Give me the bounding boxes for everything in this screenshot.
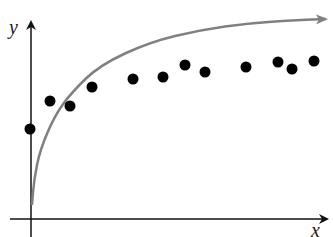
data-point	[287, 64, 298, 75]
data-point	[128, 74, 139, 85]
data-point	[87, 82, 98, 93]
data-point	[273, 57, 284, 68]
data-point	[180, 60, 191, 71]
fitted-curve	[32, 19, 326, 205]
scatter-chart: y x	[0, 0, 333, 237]
data-point	[45, 96, 56, 107]
data-point	[309, 56, 320, 67]
x-axis-label: x	[310, 219, 320, 237]
data-point	[65, 101, 76, 112]
y-axis-label: y	[7, 16, 18, 39]
data-point	[200, 67, 211, 78]
data-point	[25, 124, 36, 135]
data-point	[241, 62, 252, 73]
data-point	[158, 72, 169, 83]
